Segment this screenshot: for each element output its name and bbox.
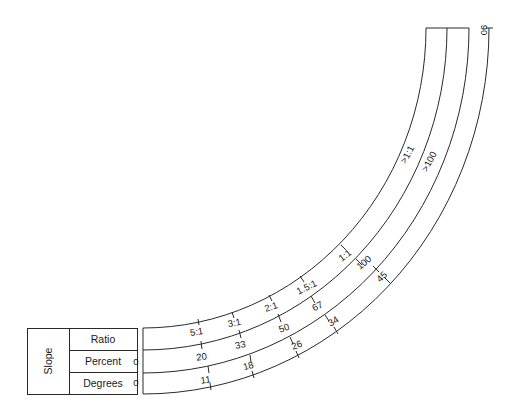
label-percent-50: 50 bbox=[277, 321, 290, 335]
tick-ratio-5-1 bbox=[198, 319, 199, 325]
tick-ratio-1-5-1 bbox=[300, 276, 304, 282]
label-degree-26: 26 bbox=[290, 338, 304, 352]
degree-start-value: 0 bbox=[133, 377, 138, 388]
label-degree-34: 34 bbox=[326, 314, 341, 329]
arc-inner bbox=[143, 28, 426, 328]
label-percent-33: 33 bbox=[234, 338, 247, 351]
scale-arcs bbox=[143, 28, 493, 394]
label-degree-18: 18 bbox=[242, 359, 255, 372]
tick-degree-11-upper bbox=[208, 366, 209, 373]
slope-label: Slope bbox=[42, 347, 54, 374]
label-ratio-2-1: 2:1 bbox=[263, 299, 279, 314]
label-percent-over-100: >100 bbox=[419, 149, 439, 173]
row-label-degrees: Degrees bbox=[83, 377, 123, 389]
slope-scale-diagram: Slope Ratio Percent Degrees bbox=[0, 0, 520, 415]
tick-percent-33 bbox=[239, 330, 241, 338]
label-ratio-over-1-1: >1:1 bbox=[398, 143, 417, 165]
tick-percent-20 bbox=[201, 341, 202, 349]
row-label-ratio: Ratio bbox=[91, 333, 116, 345]
label-percent-20: 20 bbox=[196, 350, 208, 362]
arc-ratio-percent bbox=[143, 28, 447, 350]
label-ratio-1-1: 1:1 bbox=[336, 247, 353, 264]
label-degree-11: 11 bbox=[200, 373, 211, 385]
percent-start-value: 0 bbox=[133, 356, 138, 367]
label-degree-90: 90 bbox=[479, 25, 490, 36]
row-label-percent: Percent bbox=[85, 355, 121, 367]
arc-percent-degrees bbox=[143, 28, 469, 373]
label-ratio-3-1: 3:1 bbox=[227, 316, 242, 330]
label-ratio-5-1: 5:1 bbox=[189, 325, 204, 338]
arc-outer bbox=[143, 28, 489, 394]
label-percent-67: 67 bbox=[310, 299, 325, 314]
label-percent-100: 100 bbox=[354, 253, 373, 272]
label-degree-45: 45 bbox=[374, 269, 389, 284]
